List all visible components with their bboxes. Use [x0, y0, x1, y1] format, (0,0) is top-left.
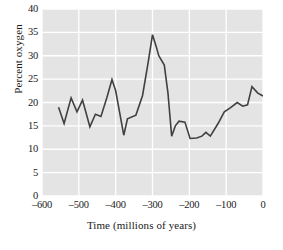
x-tick-label: 0 [238, 199, 283, 210]
y-tick-label: 10 [2, 144, 38, 154]
y-axis-title-wrapper: Percent oxygen [12, 0, 26, 134]
plot-area [42, 9, 263, 196]
x-axis-tick-labels: –600–500–400–300–200–1000 [0, 199, 283, 215]
x-axis-title: Time (millions of years) [0, 219, 283, 231]
data-series-line [42, 9, 263, 196]
y-tick-label: 5 [2, 168, 38, 178]
y-axis-title: Percent oxygen [12, 0, 24, 134]
oxygen-time-line-chart: 0510152025303540 –600–500–400–300–200–10… [0, 0, 283, 250]
